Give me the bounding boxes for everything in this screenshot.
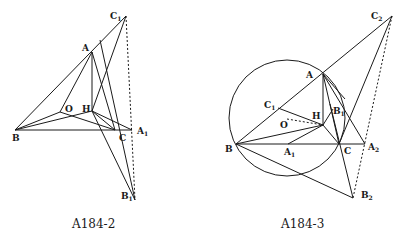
label-b2: B2 [361,190,373,201]
geometry-figures: C1 A O H B C A1 B1 A184-2 C2 A C1 H B1 O… [0,0,403,242]
caption-a184-3: A184-3 [280,217,324,231]
label-b: B [12,133,20,143]
label-h: H [82,104,91,114]
label-c2: C2 [371,11,382,22]
label-b: B [225,144,233,154]
label-h: H [312,111,321,121]
label-c: C [344,146,351,156]
label-a: A [305,70,314,80]
figure-a184-3: C2 A C1 H B1 O B A1 C A2 B2 A184-3 [225,11,392,231]
label-c1: C1 [264,100,275,111]
label-a1: A1 [283,147,295,158]
caption-a184-2: A184-2 [71,217,115,231]
label-a: A [81,43,90,53]
label-a2: A2 [367,142,379,153]
label-c: C [119,133,126,143]
label-o: O [280,120,288,130]
label-c1: C1 [110,11,121,22]
label-o: O [65,104,73,114]
label-a1: A1 [136,126,148,137]
figure-a184-2: C1 A O H B C A1 B1 A184-2 [12,11,148,231]
